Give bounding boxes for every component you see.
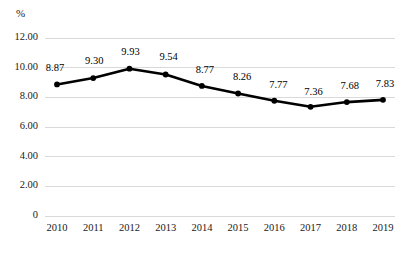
- data-point-marker: [271, 98, 277, 104]
- data-point-marker: [380, 97, 386, 103]
- data-point-marker: [199, 83, 205, 89]
- x-axis-tick-label: 2011: [73, 222, 113, 233]
- data-point-marker: [308, 104, 314, 110]
- y-axis-tick-label: 8.00: [0, 90, 38, 101]
- y-axis-tick-label: 12.00: [0, 31, 38, 42]
- y-axis-tick-label: 10.00: [0, 61, 38, 72]
- x-axis-tick-label: 2012: [109, 222, 149, 233]
- data-point-label: 7.83: [368, 78, 402, 89]
- data-point-marker: [54, 82, 60, 88]
- data-point-marker: [235, 91, 241, 97]
- data-point-label: 7.68: [333, 80, 367, 91]
- x-axis-tick-label: 2015: [218, 222, 258, 233]
- data-point-marker: [127, 66, 133, 72]
- chart-plot-area: [0, 0, 410, 257]
- data-point-marker: [163, 72, 169, 78]
- data-point-label: 7.77: [261, 79, 295, 90]
- x-axis-tick-label: 2017: [291, 222, 331, 233]
- x-axis-tick-label: 2016: [254, 222, 294, 233]
- data-point-label: 7.36: [297, 86, 331, 97]
- data-point-label: 9.54: [152, 51, 186, 62]
- x-axis-tick-label: 2013: [146, 222, 186, 233]
- x-axis-tick-label: 2010: [37, 222, 77, 233]
- x-axis-tick-label: 2014: [182, 222, 222, 233]
- data-point-marker: [344, 99, 350, 105]
- data-point-label: 8.87: [38, 62, 72, 73]
- x-axis-tick-label: 2018: [327, 222, 367, 233]
- y-axis-tick-label: 0: [0, 209, 38, 220]
- y-axis-tick-label: 4.00: [0, 150, 38, 161]
- line-chart: % 12.0010.008.006.004.002.000 2010201120…: [0, 0, 410, 257]
- data-point-label: 9.30: [77, 55, 111, 66]
- data-point-marker: [90, 75, 96, 81]
- y-axis-tick-label: 6.00: [0, 120, 38, 131]
- y-axis-tick-label: 2.00: [0, 179, 38, 190]
- data-point-label: 8.26: [225, 71, 259, 82]
- x-axis-tick-label: 2019: [363, 222, 403, 233]
- data-point-label: 9.93: [113, 46, 147, 57]
- data-point-label: 8.77: [188, 64, 222, 75]
